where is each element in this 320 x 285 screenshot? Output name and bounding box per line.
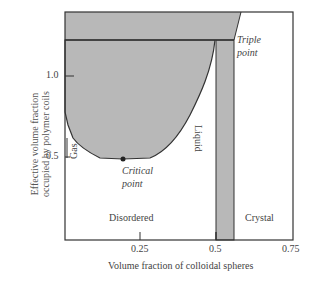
triple-point-label-2: point <box>237 47 258 58</box>
liquid-crystal-coexistence-band <box>216 40 234 240</box>
critical-point-label-2: point <box>122 178 143 189</box>
crystal-label: Crystal <box>245 212 274 223</box>
triple-point-label-1: Triple <box>237 34 261 45</box>
critical-point-marker <box>121 157 126 162</box>
x-axis-label: Volume fraction of colloidal spheres <box>108 260 253 271</box>
ytick-label-1-0: 1.0 <box>46 69 59 80</box>
ytick-label-0-5: 0.5 <box>46 150 59 161</box>
disordered-label: Disordered <box>109 212 153 223</box>
xtick-label-0-25: 0.25 <box>131 243 149 254</box>
upper-coexistence-region <box>65 12 241 40</box>
critical-point-label-1: Critical <box>122 165 153 176</box>
y-axis-label-line-1: Effective volume fraction <box>29 49 40 239</box>
xtick-label-0-75: 0.75 <box>282 243 300 254</box>
gas-label: Gas <box>68 143 79 159</box>
liquid-label: Liquid <box>193 125 204 152</box>
xtick-label-0-5: 0.5 <box>209 243 222 254</box>
